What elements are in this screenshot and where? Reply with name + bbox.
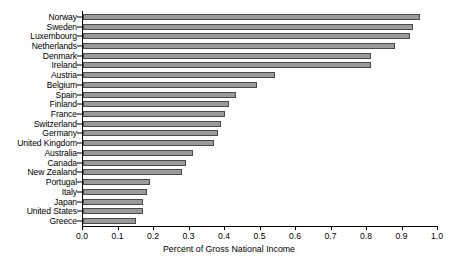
- y-axis-tick: [77, 26, 82, 27]
- bar-greece: [83, 218, 136, 224]
- x-axis-tick-label: 0.5: [254, 231, 266, 241]
- x-axis-tick: [366, 226, 367, 230]
- category-label-united-states: United States: [27, 207, 77, 216]
- x-axis-tick: [153, 226, 154, 230]
- bar-canada: [83, 160, 186, 166]
- x-axis-tick: [260, 226, 261, 230]
- y-axis-tick: [77, 211, 82, 212]
- category-label-finland: Finland: [50, 100, 78, 109]
- y-axis-tick: [77, 191, 82, 192]
- bar-france: [83, 111, 225, 117]
- bar-austria: [83, 72, 275, 78]
- y-axis-tick: [77, 46, 82, 47]
- category-label-new-zealand: New Zealand: [27, 168, 77, 177]
- x-axis-tick: [437, 226, 438, 230]
- bar-row: Greece: [0, 216, 458, 226]
- y-axis-tick: [77, 143, 82, 144]
- bar-germany: [83, 130, 218, 136]
- x-axis-tick-label: 0.3: [183, 231, 195, 241]
- category-label-switzerland: Switzerland: [34, 119, 77, 128]
- x-axis-tick: [82, 226, 83, 230]
- x-axis-tick-label: 0.6: [289, 231, 301, 241]
- category-label-united-kingdom: United Kingdom: [17, 139, 77, 148]
- y-axis-tick: [77, 162, 82, 163]
- bar-norway: [83, 14, 420, 20]
- y-axis-tick: [77, 133, 82, 134]
- category-label-greece: Greece: [49, 216, 77, 225]
- category-label-denmark: Denmark: [43, 51, 77, 60]
- category-label-australia: Australia: [44, 148, 77, 157]
- category-label-netherlands: Netherlands: [32, 42, 77, 51]
- bar-switzerland: [83, 121, 221, 127]
- x-axis-tick-label: 0.2: [147, 231, 159, 241]
- x-axis-tick-label: 0.8: [360, 231, 372, 241]
- x-axis-tick-label: 0.0: [76, 231, 88, 241]
- x-axis-tick-label: 0.7: [325, 231, 337, 241]
- y-axis-tick: [77, 104, 82, 105]
- y-axis-tick: [77, 182, 82, 183]
- category-label-spain: Spain: [56, 90, 77, 99]
- bar-portugal: [83, 179, 150, 185]
- bar-united-states: [83, 208, 143, 214]
- x-axis-tick: [189, 226, 190, 230]
- y-axis-tick: [77, 114, 82, 115]
- y-axis-tick: [77, 84, 82, 85]
- bar-italy: [83, 189, 147, 195]
- bar-sweden: [83, 24, 413, 30]
- y-axis-tick: [77, 172, 82, 173]
- bar-australia: [83, 150, 193, 156]
- bar-new-zealand: [83, 169, 182, 175]
- category-label-canada: Canada: [47, 158, 77, 167]
- category-label-norway: Norway: [48, 12, 77, 21]
- category-label-germany: Germany: [42, 129, 77, 138]
- y-axis-tick: [77, 36, 82, 37]
- bar-japan: [83, 199, 143, 205]
- y-axis-tick: [77, 16, 82, 17]
- x-axis-tick-label: 0.9: [396, 231, 408, 241]
- y-axis-tick: [77, 65, 82, 66]
- y-axis-tick: [77, 94, 82, 95]
- x-axis-tick: [295, 226, 296, 230]
- x-axis-tick-label: 1.0: [431, 231, 443, 241]
- category-label-belgium: Belgium: [47, 80, 77, 89]
- y-axis-tick: [77, 220, 82, 221]
- y-axis-tick: [77, 75, 82, 76]
- x-axis-title: Percent of Gross National Income: [0, 244, 458, 254]
- category-label-luxembourg: Luxembourg: [30, 32, 77, 41]
- bar-united-kingdom: [83, 140, 214, 146]
- bar-denmark: [83, 53, 371, 59]
- x-axis-tick-label: 0.1: [112, 231, 124, 241]
- bar-finland: [83, 101, 229, 107]
- bar-spain: [83, 92, 236, 98]
- x-axis-tick: [331, 226, 332, 230]
- y-axis-tick: [77, 55, 82, 56]
- category-label-ireland: Ireland: [51, 61, 77, 70]
- bar-ireland: [83, 62, 371, 68]
- category-label-sweden: Sweden: [47, 22, 77, 31]
- category-label-france: France: [51, 110, 77, 119]
- bar-luxembourg: [83, 33, 410, 39]
- category-label-portugal: Portugal: [46, 178, 77, 187]
- x-axis-tick: [118, 226, 119, 230]
- category-label-austria: Austria: [51, 71, 77, 80]
- x-axis-tick: [402, 226, 403, 230]
- category-label-japan: Japan: [54, 197, 77, 206]
- x-axis-tick: [224, 226, 225, 230]
- bar-chart: NorwaySwedenLuxembourgNetherlandsDenmark…: [0, 0, 458, 264]
- category-label-italy: Italy: [62, 187, 77, 196]
- bar-netherlands: [83, 43, 395, 49]
- x-axis-tick-label: 0.4: [218, 231, 230, 241]
- y-axis-tick: [77, 123, 82, 124]
- y-axis-tick: [77, 201, 82, 202]
- plot-area: NorwaySwedenLuxembourgNetherlandsDenmark…: [0, 0, 458, 264]
- bar-belgium: [83, 82, 257, 88]
- y-axis-tick: [77, 152, 82, 153]
